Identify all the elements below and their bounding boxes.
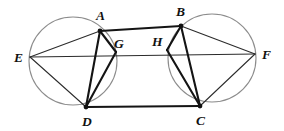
point-label-e: E — [13, 50, 23, 65]
point-label-h: H — [151, 34, 163, 49]
segment-FB — [181, 26, 255, 54]
segment-AB — [100, 26, 181, 31]
geometry-diagram: ABCDEFGH — [0, 0, 284, 131]
segment-HC — [167, 50, 200, 106]
segment-FC — [200, 54, 255, 106]
point-label-a: A — [95, 8, 105, 23]
vertex-dot-a — [98, 29, 103, 34]
vertex-dots-layer — [84, 24, 203, 110]
point-label-b: B — [175, 4, 185, 19]
vertex-dot-b — [179, 24, 184, 29]
vertex-dot-d — [84, 105, 89, 110]
point-label-f: F — [261, 47, 271, 62]
segment-BH — [167, 26, 181, 50]
segment-EA — [30, 31, 100, 57]
point-label-d: D — [81, 114, 92, 129]
segment-BC — [181, 26, 200, 106]
segment-EF — [30, 54, 255, 57]
segment-DC — [86, 106, 200, 107]
vertex-dot-c — [198, 104, 203, 109]
segment-ED — [30, 57, 86, 107]
point-label-g: G — [114, 36, 124, 51]
diagram-canvas: ABCDEFGH — [0, 0, 284, 131]
segments-layer — [30, 26, 255, 107]
point-label-c: C — [196, 113, 206, 128]
